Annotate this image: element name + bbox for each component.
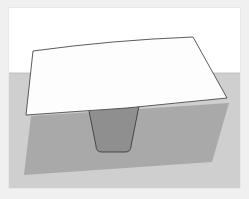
illustration-frame: 3D rendering of a flat plane resting on …	[0, 0, 249, 199]
scene-canvas: 3D rendering of a flat plane resting on …	[0, 0, 249, 199]
support-column	[88, 106, 139, 152]
